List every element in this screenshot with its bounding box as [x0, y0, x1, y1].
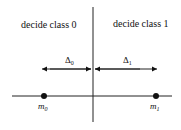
m1-label: m1	[150, 101, 160, 112]
region-label-class0: decide class 0	[21, 19, 77, 30]
delta0-label: Δ0	[65, 55, 74, 66]
m0-point	[41, 93, 47, 99]
m0-label: m0	[38, 101, 48, 112]
delta1-label: Δ1	[123, 55, 132, 66]
region-label-class1: decide class 1	[113, 18, 169, 29]
m1-point	[153, 93, 159, 99]
